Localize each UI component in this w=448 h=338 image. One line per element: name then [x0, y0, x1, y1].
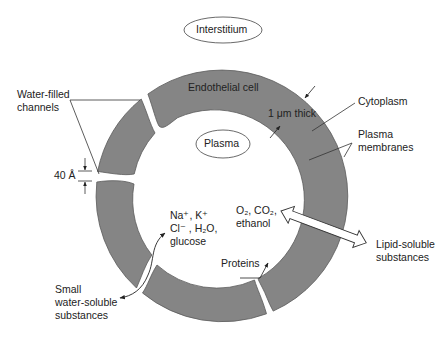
cytoplasm-pointer [312, 102, 313, 103]
plasma-membranes-label: Plasma membranes [358, 128, 413, 154]
lipid-soluble-line1: Lipid-soluble [376, 238, 435, 251]
interstitium-label: Interstitium [196, 23, 247, 36]
plasma-label: Plasma [204, 137, 239, 150]
water-channels-line1: Water-filled [17, 88, 70, 101]
small-water-soluble-label: Small water-soluble substances [55, 283, 117, 322]
water-soluble-line2: water-soluble [55, 296, 117, 309]
gap-width-markers [78, 158, 92, 194]
ions-line1: Na⁺, K⁺ [170, 209, 217, 222]
water-soluble-line1: Small [55, 283, 117, 296]
ions-label: Na⁺, K⁺ Cl⁻ , H₂O, glucose [170, 209, 217, 248]
water-soluble-line3: substances [55, 309, 117, 322]
ions-line3: glucose [170, 235, 217, 248]
endothelial-cell-label: Endothelial cell [188, 81, 259, 94]
plasma-membranes-line1: Plasma [358, 128, 413, 141]
plasma-membranes-line2: membranes [358, 141, 413, 154]
gases-label: O₂, CO₂, ethanol [236, 204, 277, 230]
gap-width-label: 40 Å [54, 169, 76, 182]
water-channels-label: Water-filled channels [17, 88, 70, 114]
proteins-label: Proteins [221, 257, 260, 270]
water-channels-line2: channels [17, 101, 70, 114]
cell-segment-lower-left [96, 181, 152, 288]
cell-segment-upper-left [98, 99, 155, 175]
gases-line2: ethanol [236, 217, 277, 230]
thickness-label: 1 μm thick [268, 107, 316, 120]
lipid-soluble-label: Lipid-soluble substances [376, 238, 435, 264]
cell-segment-bottom [143, 265, 267, 322]
ions-line2: Cl⁻ , H₂O, [170, 222, 217, 235]
gases-line1: O₂, CO₂, [236, 204, 277, 217]
lipid-soluble-line2: substances [376, 251, 435, 264]
cytoplasm-label: Cytoplasm [358, 95, 408, 108]
cell-segment-top-right [148, 70, 348, 311]
